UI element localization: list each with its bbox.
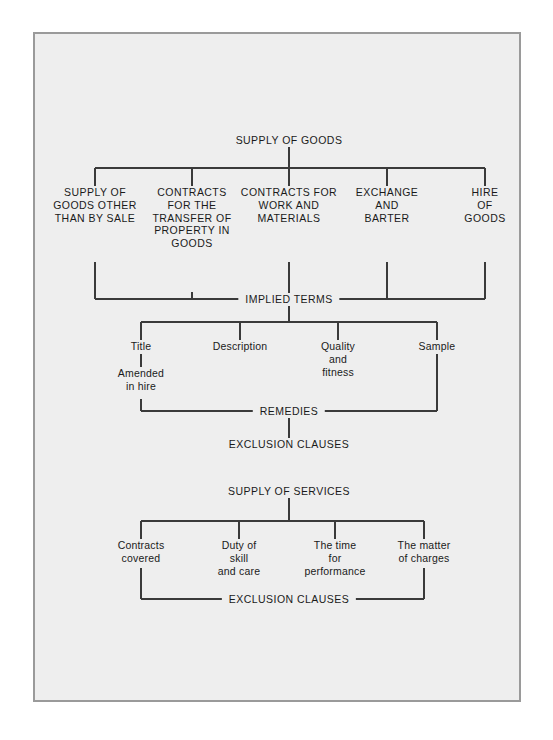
- node-exchange-and-barter: EXCHANGE AND BARTER: [337, 186, 437, 224]
- node-amended-in-hire: Amended in hire: [98, 367, 184, 393]
- node-description: Description: [195, 340, 285, 353]
- node-exclusion-clauses-goods: EXCLUSION CLAUSES: [189, 438, 389, 451]
- node-supply-of-goods: SUPPLY OF GOODS: [189, 134, 389, 147]
- node-title: Title: [101, 340, 181, 353]
- node-supply-of-services: SUPPLY OF SERVICES: [189, 485, 389, 498]
- node-hire-of-goods: HIRE OF GOODS: [445, 186, 525, 224]
- node-supply-of-goods-other-than-by-sale: SUPPLY OF GOODS OTHER THAN BY SALE: [36, 186, 154, 224]
- node-the-matter-of-charges: The matter of charges: [379, 539, 469, 565]
- figure-frame: SUPPLY OF GOODS SUPPLY OF GOODS OTHER TH…: [33, 32, 521, 702]
- node-the-time-for-performance: The time for performance: [285, 539, 385, 577]
- node-remedies: REMEDIES: [253, 405, 325, 418]
- node-contracts-for-transfer-of-property-in-goods: CONTRACTS FOR THE TRANSFER OF PROPERTY I…: [142, 186, 242, 250]
- node-duty-of-skill-and-care: Duty of skill and care: [194, 539, 284, 577]
- node-contracts-for-work-and-materials: CONTRACTS FOR WORK AND MATERIALS: [234, 186, 344, 224]
- node-quality-and-fitness: Quality and fitness: [298, 340, 378, 378]
- node-implied-terms: IMPLIED TERMS: [238, 293, 339, 306]
- node-contracts-covered: Contracts covered: [96, 539, 186, 565]
- node-sample: Sample: [397, 340, 477, 353]
- node-exclusion-clauses-services: EXCLUSION CLAUSES: [222, 593, 356, 606]
